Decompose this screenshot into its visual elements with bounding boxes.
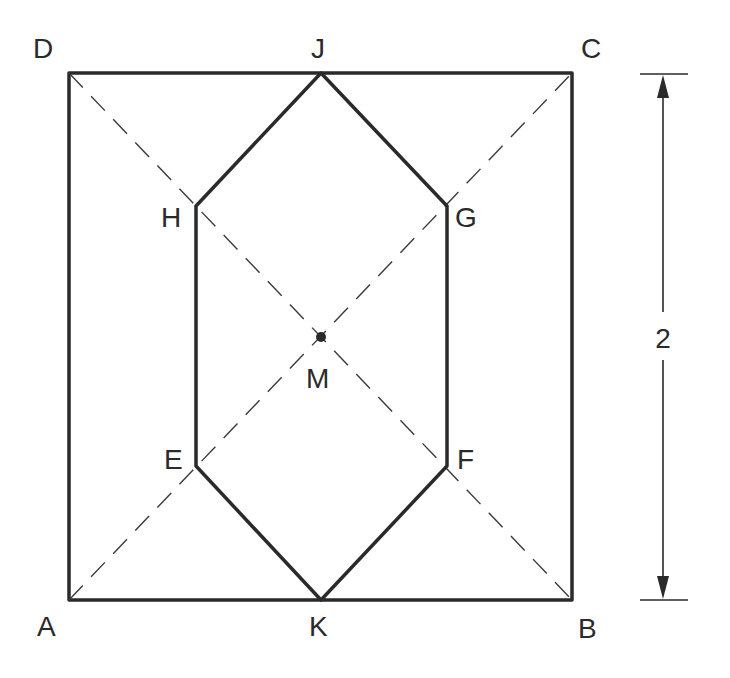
label-b: B	[578, 613, 597, 644]
label-h: H	[161, 202, 181, 233]
arrow-down-icon	[657, 576, 669, 599]
label-e: E	[164, 444, 183, 475]
label-f: F	[457, 444, 474, 475]
label-m: M	[306, 363, 329, 394]
label-a: A	[37, 611, 56, 642]
center-point-m	[316, 332, 326, 342]
label-j: J	[311, 33, 325, 64]
geometry-diagram: 2 D J C H G M E F A K B	[0, 0, 730, 678]
label-c: C	[581, 33, 601, 64]
dimension-label: 2	[655, 323, 671, 354]
label-d: D	[33, 33, 53, 64]
label-k: K	[309, 611, 328, 642]
arrow-up-icon	[657, 75, 669, 98]
label-g: G	[455, 202, 477, 233]
dimension-marker: 2	[640, 74, 688, 600]
